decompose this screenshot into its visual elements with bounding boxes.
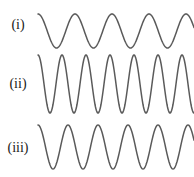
waveform-path-ii: [38, 55, 194, 113]
waveform-curve-iii: [36, 121, 194, 173]
waveform-figure: (i) (ii) (iii): [0, 0, 194, 177]
waveform-curve-i: [36, 6, 194, 46]
waveform-label-iii: (iii): [0, 141, 36, 155]
waveform-path-i: [38, 14, 194, 48]
waveform-plot-i: [36, 6, 194, 46]
waveform-curve-ii: [36, 52, 194, 116]
waveform-plot-ii: [36, 52, 194, 116]
waveform-path-iii: [38, 125, 194, 169]
waveform-label-ii: (ii): [0, 77, 36, 91]
waveform-label-i: (i): [0, 18, 36, 32]
waveform-plot-iii: [36, 121, 194, 173]
